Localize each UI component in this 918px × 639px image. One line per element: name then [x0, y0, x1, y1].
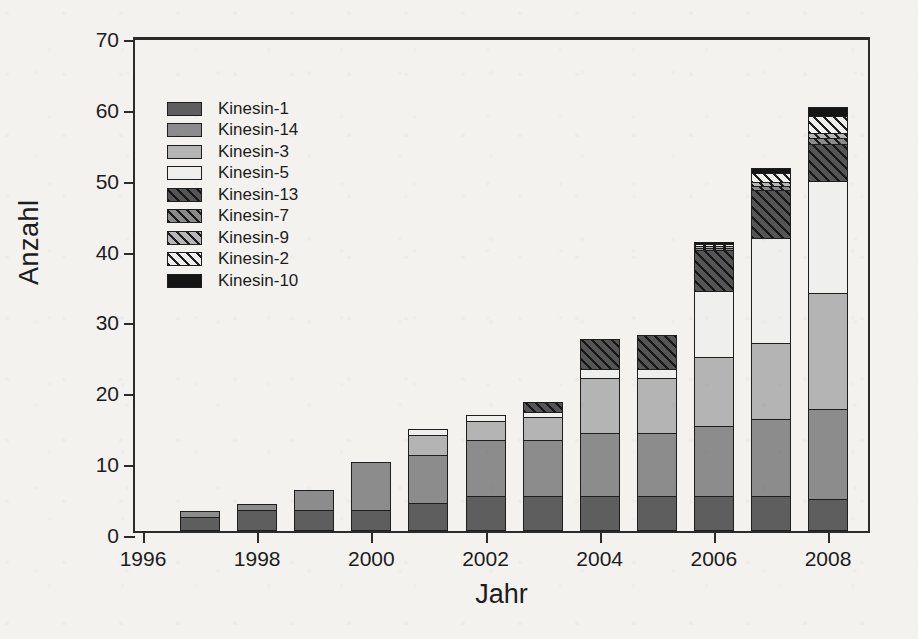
bar-segment-kinesin-1: [294, 510, 334, 531]
x-tick-mark: [600, 531, 602, 543]
bar-segment-kinesin-1: [637, 496, 677, 531]
x-tick-label: 2002: [462, 547, 509, 571]
legend-label: Kinesin-13: [218, 185, 298, 205]
bar-segment-kinesin-5: [808, 181, 848, 294]
legend-item-kinesin-14[interactable]: Kinesin-14: [167, 120, 298, 142]
legend-item-kinesin-10[interactable]: Kinesin-10: [167, 270, 298, 292]
legend-item-kinesin-13[interactable]: Kinesin-13: [167, 184, 298, 206]
y-tick-label: 60: [96, 99, 119, 123]
x-tick-mark: [828, 531, 830, 543]
bar-segment-kinesin-13: [751, 190, 791, 240]
x-tick-label: 2006: [690, 547, 737, 571]
legend-label: Kinesin-1: [218, 99, 289, 119]
chart-figure: Anzahl 010203040506070 19961998200020022…: [0, 0, 918, 639]
bar-segment-kinesin-1: [694, 496, 734, 531]
x-tick-mark: [371, 531, 373, 543]
x-axis-title: Jahr: [135, 579, 868, 610]
legend-item-kinesin-1[interactable]: Kinesin-1: [167, 98, 298, 120]
bar-segment-kinesin-3: [580, 378, 620, 435]
bar-segment-kinesin-14: [466, 440, 506, 497]
bar-2001: [408, 429, 448, 531]
bar-segment-kinesin-14: [580, 433, 620, 497]
y-tick-label: 30: [96, 311, 119, 335]
legend-swatch-icon: [167, 145, 202, 159]
legend-label: Kinesin-3: [218, 142, 289, 162]
legend-item-kinesin-3[interactable]: Kinesin-3: [167, 141, 298, 163]
x-tick-label: 1996: [120, 547, 167, 571]
bar-segment-kinesin-1: [180, 517, 220, 531]
y-tick-mark: [124, 253, 135, 255]
bar-segment-kinesin-14: [523, 440, 563, 497]
x-tick-mark: [486, 531, 488, 543]
bar-segment-kinesin-3: [523, 417, 563, 442]
bar-segment-kinesin-2: [808, 116, 848, 134]
legend-label: Kinesin-10: [218, 271, 298, 291]
legend-item-kinesin-9[interactable]: Kinesin-9: [167, 227, 298, 249]
bar-segment-kinesin-3: [637, 378, 677, 435]
x-tick-label: 1998: [234, 547, 281, 571]
legend-swatch-icon: [167, 188, 202, 202]
bar-segment-kinesin-1: [523, 496, 563, 531]
legend-item-kinesin-2[interactable]: Kinesin-2: [167, 249, 298, 271]
bar-segment-kinesin-1: [466, 496, 506, 531]
bar-2002: [466, 415, 506, 531]
legend-item-kinesin-7[interactable]: Kinesin-7: [167, 206, 298, 228]
bar-segment-kinesin-3: [408, 435, 448, 456]
bar-segment-kinesin-1: [408, 503, 448, 531]
bar-segment-kinesin-13: [637, 335, 677, 370]
legend-swatch-icon: [167, 166, 202, 180]
bar-segment-kinesin-14: [351, 462, 391, 512]
chart-legend: Kinesin-1Kinesin-14Kinesin-3Kinesin-5Kin…: [167, 98, 298, 292]
y-tick-label: 50: [96, 170, 119, 194]
legend-swatch-icon: [167, 231, 202, 245]
y-tick-mark: [124, 182, 135, 184]
y-tick-mark: [124, 465, 135, 467]
bar-1997: [180, 511, 220, 531]
bar-2008: [808, 107, 848, 531]
y-tick-label: 70: [96, 28, 119, 52]
legend-swatch-icon: [167, 252, 202, 266]
legend-swatch-icon: [167, 102, 202, 116]
bar-1999: [294, 490, 334, 531]
legend-swatch-icon: [167, 209, 202, 223]
bar-segment-kinesin-3: [694, 357, 734, 428]
bar-segment-kinesin-1: [580, 496, 620, 531]
bar-2007: [751, 168, 791, 531]
bar-segment-kinesin-5: [751, 238, 791, 344]
legend-label: Kinesin-7: [218, 206, 289, 226]
legend-swatch-icon: [167, 123, 202, 137]
legend-label: Kinesin-14: [218, 120, 298, 140]
legend-label: Kinesin-9: [218, 228, 289, 248]
y-tick-label: 10: [96, 453, 119, 477]
bar-segment-kinesin-13: [694, 250, 734, 293]
bar-segment-kinesin-14: [408, 455, 448, 505]
y-tick-label: 40: [96, 241, 119, 265]
y-tick-label: 20: [96, 382, 119, 406]
bar-2004: [580, 339, 620, 531]
bar-segment-kinesin-3: [466, 421, 506, 442]
legend-item-kinesin-5[interactable]: Kinesin-5: [167, 163, 298, 185]
y-tick-mark: [124, 394, 135, 396]
x-tick-label: 2008: [805, 547, 852, 571]
y-tick-mark: [124, 323, 135, 325]
y-tick-mark: [124, 536, 135, 538]
bar-segment-kinesin-1: [237, 510, 277, 531]
x-tick-mark: [257, 531, 259, 543]
bar-segment-kinesin-14: [808, 409, 848, 501]
bar-2003: [523, 402, 563, 531]
bar-segment-kinesin-14: [294, 490, 334, 511]
legend-label: Kinesin-5: [218, 163, 289, 183]
bar-segment-kinesin-14: [694, 426, 734, 497]
x-tick-label: 2004: [576, 547, 623, 571]
bar-segment-kinesin-1: [808, 499, 848, 531]
bar-segment-kinesin-14: [751, 419, 791, 497]
legend-label: Kinesin-2: [218, 249, 289, 269]
bar-1998: [237, 504, 277, 531]
y-tick-label: 0: [107, 524, 119, 548]
bar-segment-kinesin-13: [808, 144, 848, 183]
x-tick-label: 2000: [348, 547, 395, 571]
bar-2005: [637, 335, 677, 531]
y-tick-mark: [124, 40, 135, 42]
plot-area: 010203040506070 199619982000200220042006…: [133, 37, 870, 533]
y-axis-title: Anzahl: [14, 199, 45, 285]
